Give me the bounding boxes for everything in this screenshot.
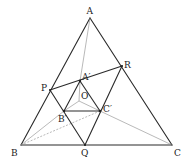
segment-a1-b1 [64,81,80,111]
label-b: B [11,148,18,158]
geometry-diagram: A B C P Q R A′ B′ C′ O [0,0,191,168]
point-b1 [63,110,65,112]
label-a1: A′ [81,72,91,82]
point-p [49,89,51,91]
label-b1: B′ [58,114,67,124]
point-c1 [99,110,101,112]
label-a: A [86,6,94,16]
point-q [84,144,86,146]
label-p: P [41,83,47,93]
point-r [121,65,123,67]
line-a1-o [79,81,80,101]
label-r: R [124,60,131,70]
label-q: Q [81,148,88,158]
segment-p-q [50,90,85,145]
label-c1: C′ [103,104,112,114]
point-a1 [79,80,81,82]
label-o: O [81,91,88,101]
label-c: C [174,148,181,158]
